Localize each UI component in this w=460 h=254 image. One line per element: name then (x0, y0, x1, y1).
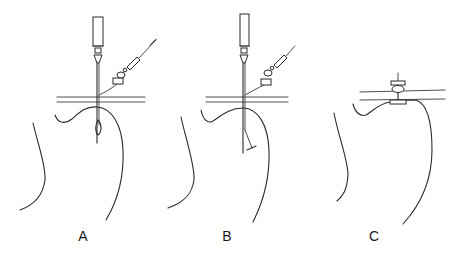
panel-a (20, 17, 156, 220)
needle-cone-b (240, 55, 248, 63)
procedure-diagram (0, 0, 460, 254)
body-contour-left-c (334, 113, 348, 201)
panel-label-c: C (364, 228, 384, 244)
bolster-knob-b (264, 70, 272, 76)
wire-syringe-b (274, 55, 287, 68)
anchor-strut-b (245, 130, 252, 148)
body-contour-left-a (20, 123, 45, 210)
panel-c (334, 73, 445, 224)
tether-line-a (99, 84, 117, 95)
syringe-barrel-b (240, 14, 249, 46)
wire-syringe-a (127, 57, 140, 70)
tether-line-b (245, 85, 264, 95)
needle-cone-a (94, 55, 102, 63)
guide-wire-a (139, 40, 156, 58)
syringe-barrel-a (93, 17, 103, 46)
needle-hub-a (95, 48, 101, 53)
guide-wire-b (286, 46, 295, 56)
device-body-c (392, 86, 404, 93)
bolster-knob-a (117, 72, 125, 78)
panel-b (150, 14, 295, 222)
panel-label-a: A (73, 228, 93, 244)
body-contour-left-b (168, 117, 194, 208)
internal-bumper-c (390, 100, 406, 104)
panel-label-b: B (217, 228, 237, 244)
bolster-b (261, 79, 271, 85)
bolster-a (113, 78, 123, 84)
organ-contour-a (55, 107, 123, 220)
organ-contour-c (353, 100, 432, 224)
device-cap-c (391, 81, 405, 85)
needle-hub-b (241, 48, 247, 53)
organ-contour-b (201, 108, 269, 222)
